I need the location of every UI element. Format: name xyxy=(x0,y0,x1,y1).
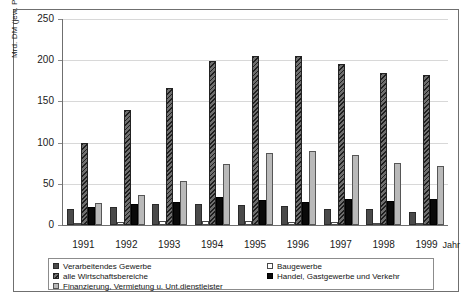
bar-group-1999 xyxy=(405,19,448,225)
plot-container: Mrd. DM (jew. Preise) 250200150100500 19… xyxy=(14,10,460,235)
bar-1997-series-2[interactable] xyxy=(338,64,345,226)
legend-swatch-solid-black-icon xyxy=(267,273,273,279)
bar-1999-series-2[interactable] xyxy=(423,75,430,225)
y-tick-mark-250 xyxy=(58,19,62,20)
y-tick-150: 150 xyxy=(37,96,54,106)
bar-group-1993 xyxy=(149,19,192,225)
bar-group-1994 xyxy=(191,19,234,225)
legend-row-0: Verarbeitendes GewerbeBaugewerbe xyxy=(53,261,429,271)
chart-legend: Verarbeitendes GewerbeBaugewerbealle Wir… xyxy=(48,258,434,290)
bar-1995-series-3[interactable] xyxy=(259,200,266,225)
bar-1994-series-1[interactable] xyxy=(202,221,209,225)
legend-swatch-diagonal-hatch-icon xyxy=(53,273,59,279)
x-tick-1997: 1997 xyxy=(319,235,362,255)
bar-1994-series-0[interactable] xyxy=(195,204,202,225)
y-axis-tick-labels: 250200150100500 xyxy=(28,10,58,235)
bar-1993-series-1[interactable] xyxy=(159,221,166,225)
y-tick-mark-150 xyxy=(58,101,62,102)
bar-1996-series-4[interactable] xyxy=(309,151,316,225)
x-axis-tick-labels: 199119921993199419951996199719981999 xyxy=(62,235,448,255)
x-tick-1994: 1994 xyxy=(191,235,234,255)
bar-1992-series-4[interactable] xyxy=(138,195,145,225)
bar-groups xyxy=(63,19,448,225)
bar-1999-series-0[interactable] xyxy=(409,212,416,225)
legend-label-0: Verarbeitendes Gewerbe xyxy=(63,262,152,271)
bar-1991-series-3[interactable] xyxy=(88,207,95,225)
x-tick-1992: 1992 xyxy=(105,235,148,255)
y-tick-mark-200 xyxy=(58,60,62,61)
x-axis-title: Jahr xyxy=(442,235,460,255)
legend-item-4: Finanzierung, Vermietung u. Unt.dienstle… xyxy=(53,281,267,291)
bar-1995-series-0[interactable] xyxy=(238,205,245,225)
bar-1999-series-3[interactable] xyxy=(430,199,437,225)
bar-1991-series-0[interactable] xyxy=(67,209,74,225)
bar-1998-series-1[interactable] xyxy=(373,223,380,225)
legend-swatch-white-open-icon xyxy=(267,263,273,269)
bar-1997-series-3[interactable] xyxy=(345,199,352,225)
legend-label-1: Baugewerbe xyxy=(277,262,322,271)
bar-1991-series-1[interactable] xyxy=(74,223,81,225)
y-tick-mark-0 xyxy=(58,225,62,226)
bar-1994-series-4[interactable] xyxy=(223,164,230,225)
x-tick-1995: 1995 xyxy=(234,235,277,255)
y-tick-mark-100 xyxy=(58,143,62,144)
bar-1991-series-4[interactable] xyxy=(95,203,102,225)
bar-1994-series-3[interactable] xyxy=(216,197,223,225)
legend-label-2: alle Wirtschaftsbereiche xyxy=(63,272,148,281)
legend-item-0: Verarbeitendes Gewerbe xyxy=(53,261,267,271)
y-tick-250: 250 xyxy=(37,14,54,24)
legend-swatch-light-stipple-icon xyxy=(53,283,59,289)
bar-1998-series-4[interactable] xyxy=(394,163,401,225)
legend-row-2: Finanzierung, Vermietung u. Unt.dienstle… xyxy=(53,281,429,291)
y-tick-200: 200 xyxy=(37,55,54,65)
bar-1995-series-4[interactable] xyxy=(266,153,273,225)
bar-1993-series-2[interactable] xyxy=(166,88,173,225)
bar-1992-series-3[interactable] xyxy=(131,204,138,225)
bar-1993-series-0[interactable] xyxy=(152,204,159,225)
y-tick-mark-50 xyxy=(58,184,62,185)
bar-group-1996 xyxy=(277,19,320,225)
bar-group-1997 xyxy=(320,19,363,225)
legend-row-1: alle WirtschaftsbereicheHandel, Gastgewe… xyxy=(53,271,429,281)
bar-group-1998 xyxy=(362,19,405,225)
chart-frame: Mrd. DM (jew. Preise) 250200150100500 19… xyxy=(13,9,459,292)
x-tick-1993: 1993 xyxy=(148,235,191,255)
y-tick-100: 100 xyxy=(37,138,54,148)
bar-1997-series-0[interactable] xyxy=(324,209,331,225)
plot-area xyxy=(62,19,448,226)
bar-1992-series-0[interactable] xyxy=(110,207,117,225)
y-axis-title: Mrd. DM (jew. Preise) xyxy=(10,0,19,58)
x-tick-1996: 1996 xyxy=(276,235,319,255)
legend-label-4: Finanzierung, Vermietung u. Unt.dienstle… xyxy=(63,282,223,291)
bar-1997-series-4[interactable] xyxy=(352,155,359,225)
bar-1999-series-1[interactable] xyxy=(416,223,423,225)
legend-item-2: alle Wirtschaftsbereiche xyxy=(53,271,267,281)
bar-1996-series-2[interactable] xyxy=(295,56,302,225)
x-tick-1991: 1991 xyxy=(62,235,105,255)
bar-1998-series-2[interactable] xyxy=(380,73,387,225)
bar-1992-series-2[interactable] xyxy=(124,110,131,225)
bar-1999-series-4[interactable] xyxy=(437,166,444,225)
bar-1997-series-1[interactable] xyxy=(331,222,338,225)
bar-group-1992 xyxy=(106,19,149,225)
y-tick-0: 0 xyxy=(48,220,54,230)
bar-group-1991 xyxy=(63,19,106,225)
bar-1991-series-2[interactable] xyxy=(81,143,88,225)
bar-1995-series-1[interactable] xyxy=(245,221,252,225)
y-tick-50: 50 xyxy=(43,179,54,189)
bar-1992-series-1[interactable] xyxy=(117,222,124,225)
bar-1996-series-3[interactable] xyxy=(302,202,309,225)
bar-group-1995 xyxy=(234,19,277,225)
bar-1998-series-0[interactable] xyxy=(366,209,373,225)
bar-1996-series-0[interactable] xyxy=(281,206,288,225)
bar-1993-series-4[interactable] xyxy=(180,181,187,225)
bar-1995-series-2[interactable] xyxy=(252,56,259,225)
bar-1994-series-2[interactable] xyxy=(209,61,216,225)
bar-1998-series-3[interactable] xyxy=(387,201,394,225)
bar-1996-series-1[interactable] xyxy=(288,222,295,225)
legend-label-3: Handel, Gastgewerbe und Verkehr xyxy=(277,272,400,281)
legend-item-3: Handel, Gastgewerbe und Verkehr xyxy=(267,271,400,281)
legend-swatch-dark-speckle-icon xyxy=(53,263,59,269)
bar-1993-series-3[interactable] xyxy=(173,202,180,225)
legend-item-1: Baugewerbe xyxy=(267,261,322,271)
